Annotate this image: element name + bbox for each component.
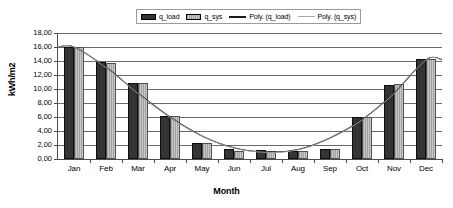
legend-item-q-sys: q_sys (186, 13, 222, 21)
y-axis-label: 16,00 (18, 43, 52, 51)
legend-swatch-q-sys-icon (186, 14, 201, 20)
x-axis-label-apr: Apr (164, 164, 176, 173)
x-axis-tick (410, 159, 411, 163)
x-axis-tick (346, 159, 347, 163)
y-axis-label: 2,00 (18, 141, 52, 149)
legend-label-q-sys: q_sys (204, 13, 222, 21)
plot-area: 0,002,004,006,008,0010,0012,0014,0016,00… (57, 33, 442, 160)
legend-line-poly-q-load-icon (229, 14, 246, 19)
x-axis-tick (282, 159, 283, 163)
x-axis-tick (122, 159, 123, 163)
y-axis-label: 0,00 (18, 155, 52, 163)
y-axis-label: 10,00 (18, 85, 52, 93)
y-axis-label: 14,00 (18, 57, 52, 65)
y-axis-title: kWh/m2 (7, 63, 17, 96)
legend-label-q-load: q_load (159, 13, 179, 21)
chart-legend: q_load q_sys Poly. (q_load) Poly. (q_sys… (136, 9, 361, 24)
y-axis-tick (54, 159, 58, 160)
legend-item-poly-q-load: Poly. (q_load) (229, 13, 290, 21)
trendlines-group (58, 33, 442, 159)
legend-item-poly-q-sys: Poly. (q_sys) (298, 13, 357, 21)
legend-item-q-load: q_load (141, 13, 179, 21)
x-axis-label-nov: Nov (387, 164, 401, 173)
x-axis-label-jul: Jul (261, 164, 271, 173)
x-axis-tick (250, 159, 251, 163)
legend-label-poly-q-sys: Poly. (q_sys) (318, 13, 357, 21)
x-axis-tick (154, 159, 155, 163)
x-axis-tick (186, 159, 187, 163)
x-axis-title: Month (0, 186, 453, 196)
y-axis-label: 8,00 (18, 99, 52, 107)
x-axis-label-feb: Feb (99, 164, 113, 173)
x-axis-label-may: May (195, 164, 210, 173)
x-axis-label-aug: Aug (291, 164, 305, 173)
x-axis-tick (90, 159, 91, 163)
x-axis-label-jun: Jun (228, 164, 241, 173)
x-axis-tick (442, 159, 443, 163)
y-axis-label: 6,00 (18, 113, 52, 121)
x-axis-tick (314, 159, 315, 163)
y-axis-label: 18,00 (18, 29, 52, 37)
chart-container: q_load q_sys Poly. (q_load) Poly. (q_sys… (0, 0, 453, 208)
trendline-polyq_sys (58, 45, 442, 152)
y-axis-label: 12,00 (18, 71, 52, 79)
x-axis-label-oct: Oct (356, 164, 368, 173)
x-axis-tick (218, 159, 219, 163)
y-axis-label: 4,00 (18, 127, 52, 135)
trendline-polyq_load (58, 45, 442, 152)
legend-line-poly-q-sys-icon (298, 14, 315, 19)
x-axis-label-dec: Dec (419, 164, 433, 173)
x-axis-label-jan: Jan (68, 164, 81, 173)
x-axis-tick (378, 159, 379, 163)
legend-label-poly-q-load: Poly. (q_load) (249, 13, 290, 21)
legend-swatch-q-load-icon (141, 14, 156, 20)
x-axis-label-mar: Mar (131, 164, 144, 173)
x-axis-label-sep: Sep (323, 164, 337, 173)
